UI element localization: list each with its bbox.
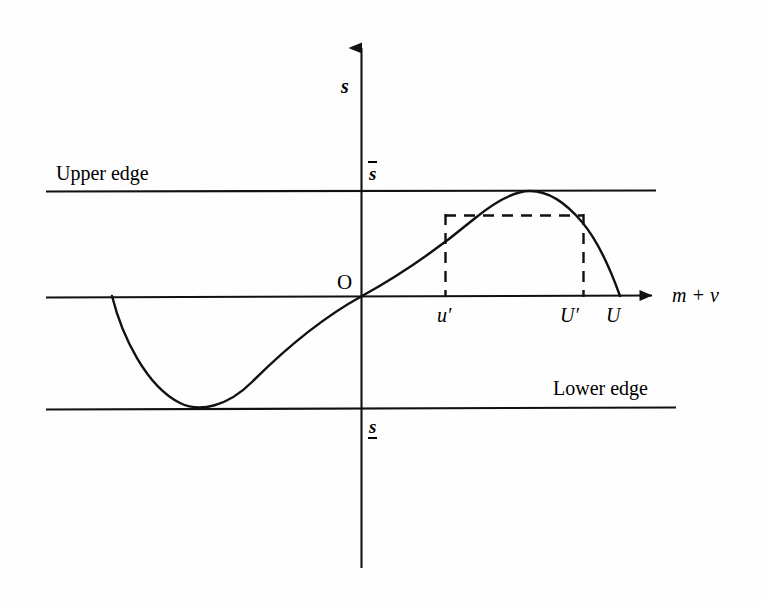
upper-edge-label: Upper edge <box>56 163 149 183</box>
x-axis-label: m + v <box>672 285 719 305</box>
u-prime-label: u′ <box>437 305 451 325</box>
s-upper-bound-label: s <box>369 164 376 183</box>
seigniorage-curve-figure: Upper edge Lower edge O s m + v s s u′ U… <box>0 0 766 604</box>
seigniorage-curve <box>112 191 620 407</box>
x-axis <box>46 296 652 298</box>
s-upper-bound-glyph: s <box>369 164 376 183</box>
diagram-canvas <box>0 0 766 604</box>
lower-edge-label: Lower edge <box>553 378 648 398</box>
U-prime-label: U′ <box>560 305 579 325</box>
upper-edge-line <box>46 191 656 192</box>
y-axis-label: s <box>341 76 349 96</box>
s-lower-bound-label: s <box>369 417 376 436</box>
origin-label: O <box>337 272 352 293</box>
U-label: U <box>606 305 620 325</box>
s-lower-bound-glyph: s <box>369 417 376 436</box>
